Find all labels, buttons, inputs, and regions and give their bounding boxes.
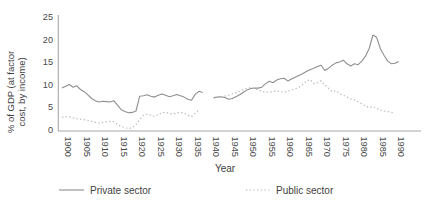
y-tick-label: 5 — [48, 102, 53, 112]
legend-private-label: Private sector — [90, 185, 152, 196]
x-tick-label: 1925 — [156, 137, 166, 157]
x-tick-label: 1945 — [230, 137, 240, 157]
y-axis-label-line1: % of GDP (at factor — [5, 51, 16, 133]
axes — [58, 15, 421, 131]
x-tick-label: 1930 — [174, 137, 184, 157]
y-axis-label-line2: cost, by income) — [16, 57, 27, 126]
chart-canvas: % of GDP (at factor cost, by income) Yea… — [0, 0, 429, 209]
x-tick-label: 1960 — [285, 137, 295, 157]
public-sector-line — [214, 80, 395, 114]
x-tick-label: 1980 — [359, 137, 369, 157]
x-tick-label: 1915 — [119, 137, 129, 157]
private-sector-line — [214, 35, 399, 99]
x-tick-label: 1935 — [193, 137, 203, 157]
y-tick-label: 15 — [43, 57, 53, 67]
x-tick-label: 1985 — [378, 137, 388, 157]
x-tick-label: 1910 — [100, 137, 110, 157]
legend-public-label: Public sector — [276, 185, 334, 196]
x-tick-label: 1970 — [322, 137, 332, 157]
y-tick-label: 20 — [43, 35, 53, 45]
y-tick-label: 0 — [48, 125, 53, 135]
x-tick-label: 1905 — [82, 137, 92, 157]
y-tick-label: 10 — [43, 80, 53, 90]
x-tick-label: 1975 — [341, 137, 351, 157]
x-tick-label: 1920 — [137, 137, 147, 157]
y-tick-label: 25 — [43, 12, 53, 22]
x-tick-label: 1955 — [267, 137, 277, 157]
private-sector-line — [62, 85, 203, 113]
x-tick-label: 1990 — [396, 137, 406, 157]
x-tick-label: 1950 — [248, 137, 258, 157]
x-tick-label: 1965 — [304, 137, 314, 157]
x-tick-label: 1900 — [63, 137, 73, 157]
gdp-sector-line-chart: % of GDP (at factor cost, by income) Yea… — [0, 0, 429, 209]
x-tick-label: 1940 — [211, 137, 221, 157]
x-axis-label: Year — [215, 163, 236, 174]
